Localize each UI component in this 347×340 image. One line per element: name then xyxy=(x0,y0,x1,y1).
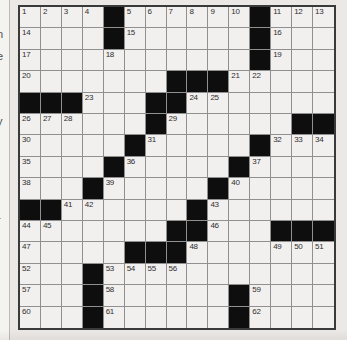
grid-cell[interactable]: 12 xyxy=(292,7,313,28)
grid-cell[interactable]: 45 xyxy=(41,221,62,242)
grid-cell[interactable] xyxy=(187,178,208,199)
grid-cell[interactable]: 32 xyxy=(271,135,292,156)
grid-cell[interactable]: 41 xyxy=(62,200,83,221)
grid-cell[interactable]: 40 xyxy=(229,178,250,199)
grid-cell[interactable]: 35 xyxy=(20,157,41,178)
grid-cell[interactable] xyxy=(41,28,62,49)
grid-cell[interactable] xyxy=(41,285,62,306)
grid-cell[interactable] xyxy=(250,242,271,263)
grid-cell[interactable] xyxy=(271,178,292,199)
grid-cell[interactable]: 49 xyxy=(271,242,292,263)
grid-cell[interactable] xyxy=(208,114,229,135)
grid-cell[interactable] xyxy=(62,221,83,242)
grid-cell[interactable]: 27 xyxy=(41,114,62,135)
grid-cell[interactable] xyxy=(292,28,313,49)
grid-cell[interactable] xyxy=(208,307,229,328)
grid-cell[interactable] xyxy=(104,71,125,92)
grid-cell[interactable] xyxy=(271,264,292,285)
grid-cell[interactable] xyxy=(167,135,188,156)
grid-cell[interactable]: 53 xyxy=(104,264,125,285)
grid-cell[interactable]: 47 xyxy=(20,242,41,263)
grid-cell[interactable]: 20 xyxy=(20,71,41,92)
grid-cell[interactable] xyxy=(146,71,167,92)
grid-cell[interactable] xyxy=(104,200,125,221)
grid-cell[interactable] xyxy=(41,264,62,285)
grid-cell[interactable] xyxy=(313,28,334,49)
grid-cell[interactable] xyxy=(208,50,229,71)
grid-cell[interactable]: 60 xyxy=(20,307,41,328)
grid-cell[interactable]: 62 xyxy=(250,307,271,328)
grid-cell[interactable]: 30 xyxy=(20,135,41,156)
grid-cell[interactable] xyxy=(271,114,292,135)
grid-cell[interactable] xyxy=(250,93,271,114)
grid-cell[interactable] xyxy=(292,285,313,306)
grid-cell[interactable] xyxy=(41,50,62,71)
grid-cell[interactable]: 11 xyxy=(271,7,292,28)
grid-cell[interactable] xyxy=(229,264,250,285)
grid-cell[interactable]: 28 xyxy=(62,114,83,135)
grid-cell[interactable] xyxy=(62,135,83,156)
grid-cell[interactable] xyxy=(313,50,334,71)
grid-cell[interactable] xyxy=(292,71,313,92)
grid-cell[interactable] xyxy=(41,178,62,199)
grid-cell[interactable] xyxy=(292,264,313,285)
grid-cell[interactable] xyxy=(271,71,292,92)
grid-cell[interactable] xyxy=(250,114,271,135)
grid-cell[interactable] xyxy=(292,307,313,328)
grid-cell[interactable] xyxy=(250,221,271,242)
grid-cell[interactable]: 7 xyxy=(167,7,188,28)
grid-cell[interactable]: 36 xyxy=(125,157,146,178)
grid-cell[interactable] xyxy=(187,28,208,49)
grid-cell[interactable]: 9 xyxy=(208,7,229,28)
grid-cell[interactable] xyxy=(229,50,250,71)
grid-cell[interactable] xyxy=(167,200,188,221)
grid-cell[interactable] xyxy=(83,28,104,49)
grid-cell[interactable] xyxy=(167,28,188,49)
grid-cell[interactable] xyxy=(167,178,188,199)
grid-cell[interactable] xyxy=(167,50,188,71)
grid-cell[interactable]: 3 xyxy=(62,7,83,28)
grid-cell[interactable]: 61 xyxy=(104,307,125,328)
grid-cell[interactable] xyxy=(167,307,188,328)
grid-cell[interactable] xyxy=(125,221,146,242)
grid-cell[interactable]: 10 xyxy=(229,7,250,28)
grid-cell[interactable]: 22 xyxy=(250,71,271,92)
grid-cell[interactable] xyxy=(146,307,167,328)
grid-cell[interactable]: 24 xyxy=(187,93,208,114)
grid-cell[interactable] xyxy=(229,93,250,114)
grid-cell[interactable] xyxy=(208,264,229,285)
grid-cell[interactable] xyxy=(208,135,229,156)
grid-cell[interactable] xyxy=(125,285,146,306)
grid-cell[interactable] xyxy=(41,157,62,178)
grid-cell[interactable]: 44 xyxy=(20,221,41,242)
grid-cell[interactable] xyxy=(125,114,146,135)
grid-cell[interactable] xyxy=(104,135,125,156)
grid-cell[interactable]: 13 xyxy=(313,7,334,28)
grid-cell[interactable] xyxy=(146,50,167,71)
grid-cell[interactable] xyxy=(208,157,229,178)
grid-cell[interactable] xyxy=(62,264,83,285)
grid-cell[interactable] xyxy=(313,285,334,306)
grid-cell[interactable]: 46 xyxy=(208,221,229,242)
grid-cell[interactable]: 5 xyxy=(125,7,146,28)
grid-cell[interactable] xyxy=(146,178,167,199)
grid-cell[interactable]: 18 xyxy=(104,50,125,71)
grid-cell[interactable] xyxy=(187,264,208,285)
grid-cell[interactable]: 6 xyxy=(146,7,167,28)
grid-cell[interactable] xyxy=(208,242,229,263)
grid-cell[interactable] xyxy=(271,285,292,306)
grid-cell[interactable] xyxy=(167,285,188,306)
grid-cell[interactable] xyxy=(187,157,208,178)
grid-cell[interactable]: 33 xyxy=(292,135,313,156)
grid-cell[interactable] xyxy=(187,50,208,71)
grid-cell[interactable]: 19 xyxy=(271,50,292,71)
grid-cell[interactable]: 37 xyxy=(250,157,271,178)
grid-cell[interactable]: 34 xyxy=(313,135,334,156)
grid-cell[interactable]: 42 xyxy=(83,200,104,221)
grid-cell[interactable] xyxy=(313,157,334,178)
grid-cell[interactable] xyxy=(62,178,83,199)
grid-cell[interactable]: 8 xyxy=(187,7,208,28)
grid-cell[interactable] xyxy=(83,157,104,178)
grid-cell[interactable] xyxy=(208,285,229,306)
grid-cell[interactable] xyxy=(125,93,146,114)
